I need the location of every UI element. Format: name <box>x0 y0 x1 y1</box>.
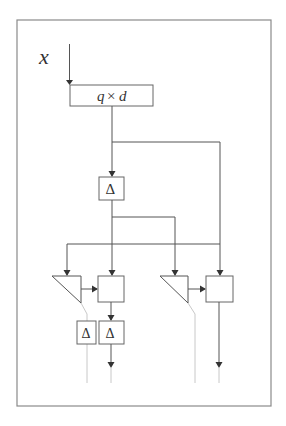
arrowhead-icon <box>66 80 73 85</box>
comparator-triangle-right <box>160 276 188 303</box>
input-arrow <box>66 44 73 85</box>
delay-block-left: Δ <box>77 321 96 344</box>
arrowhead-icon <box>109 171 116 177</box>
arrowhead-icon <box>200 286 206 293</box>
faint-output-right <box>188 303 195 383</box>
comparator-triangle-left <box>52 276 81 303</box>
multiplier-label-times: × <box>107 88 115 104</box>
input-label: x <box>38 44 49 69</box>
trunk-wires <box>109 106 221 275</box>
distribution-wires <box>67 200 220 275</box>
arrowhead-icon <box>108 315 115 321</box>
arrowhead-icon <box>216 362 223 368</box>
delay-label-left: Δ <box>82 326 91 341</box>
multiplier-block: q × d <box>70 85 153 106</box>
arrowhead-icon <box>64 270 71 276</box>
multiplier-label-d: d <box>119 88 127 104</box>
delay-label-main: Δ <box>106 181 116 197</box>
arrowhead-icon <box>109 270 116 276</box>
block-diagram: x q × d Δ <box>0 0 286 426</box>
diagram-frame <box>17 20 271 406</box>
arrowhead-icon <box>172 270 179 276</box>
processing-block-left <box>98 276 124 302</box>
arrowhead-icon <box>92 286 98 293</box>
delay-label-right: Δ <box>106 326 115 341</box>
processing-block-right <box>206 276 233 302</box>
multiplier-label-q: q <box>97 88 105 104</box>
arrowhead-icon <box>217 270 224 276</box>
delay-block-main: Δ <box>99 177 124 200</box>
delay-block-right: Δ <box>99 321 124 344</box>
arrowhead-icon <box>108 362 115 368</box>
